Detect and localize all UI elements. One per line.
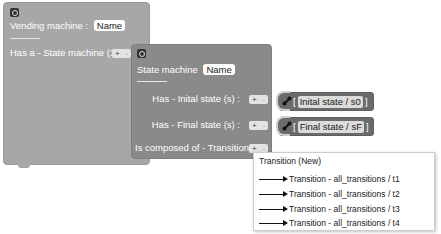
minus-icon[interactable]: -	[125, 49, 128, 58]
state-machine-relation-label: Has a - State machine (1) :	[10, 47, 124, 59]
arrow-icon	[259, 223, 285, 224]
link-icon[interactable]	[282, 96, 292, 106]
minus-icon[interactable]: -	[262, 121, 265, 130]
state-machine-header: State machine Name	[137, 64, 235, 76]
divider	[137, 81, 167, 82]
final-state-reference[interactable]: [Final state / sF]	[279, 117, 374, 136]
final-state-label: Has - Final state (s) :	[152, 119, 240, 131]
add-remove-state-machine[interactable]: + -	[112, 49, 131, 58]
transition-dropdown-menu: Transition (New) Transition - all_transi…	[253, 152, 435, 231]
block-connector-tab	[18, 164, 30, 168]
menu-item-transition-t3[interactable]: Transition - all_transitions / t3	[259, 204, 400, 215]
add-remove-final-state[interactable]: + -	[249, 121, 268, 130]
block-title: Vending machine	[10, 20, 83, 31]
plus-icon[interactable]: +	[115, 49, 120, 58]
menu-item-transition-t4[interactable]: Transition - all_transitions / t4	[259, 218, 400, 229]
gear-icon[interactable]	[10, 8, 19, 17]
add-remove-initial-state[interactable]: + -	[249, 95, 268, 104]
arrow-icon	[259, 194, 285, 195]
reference-value[interactable]: Final state / sF	[298, 121, 364, 133]
arrow-icon	[259, 209, 285, 210]
link-icon[interactable]	[282, 121, 292, 131]
name-field[interactable]: Name	[203, 64, 234, 75]
initial-state-reference[interactable]: [Inital state / s0]	[279, 92, 374, 111]
plus-icon[interactable]: +	[252, 121, 257, 130]
gear-icon[interactable]	[137, 49, 146, 58]
vending-machine-header: Vending machine : Name	[10, 20, 125, 32]
plus-icon[interactable]: +	[252, 95, 257, 104]
menu-item-transition-t1[interactable]: Transition - all_transitions / t1	[259, 174, 400, 185]
vending-machine-block[interactable]: Vending machine : Name Has a - State mac…	[3, 2, 150, 165]
menu-item-transition-t2[interactable]: Transition - all_transitions / t2	[259, 189, 400, 200]
initial-state-label: Has - Inital state (s) :	[152, 93, 240, 105]
minus-icon[interactable]: -	[262, 95, 265, 104]
arrow-icon	[259, 179, 285, 180]
reference-value[interactable]: Inital state / s0	[298, 96, 363, 108]
divider	[10, 38, 40, 39]
name-field[interactable]: Name	[94, 20, 125, 31]
block-title: State machine	[137, 64, 198, 75]
menu-item-new-transition[interactable]: Transition (New)	[259, 156, 321, 167]
